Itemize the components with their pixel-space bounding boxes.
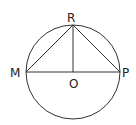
segment-rp bbox=[73, 25, 120, 72]
segment-mr bbox=[26, 25, 73, 72]
label-p: P bbox=[122, 66, 129, 80]
label-r: R bbox=[67, 11, 75, 25]
label-m: M bbox=[10, 66, 20, 80]
label-o: O bbox=[69, 77, 78, 91]
geometry-diagram: R M P O bbox=[0, 0, 136, 125]
